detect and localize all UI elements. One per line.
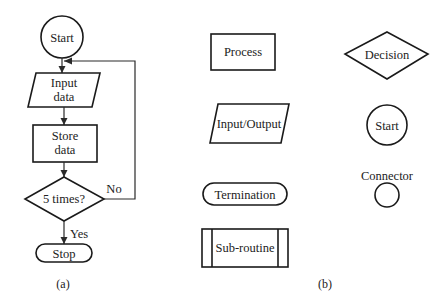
store-label-line2: data	[55, 143, 76, 157]
stop-label: Stop	[53, 247, 76, 261]
arrowhead-icon	[59, 66, 66, 73]
symbol-legend-b: Process Input/Output Termination Sub-rou…	[202, 32, 428, 291]
caption-b: (b)	[318, 277, 332, 291]
input-output-label: Input/Output	[217, 117, 282, 131]
flowchart-a: Start Input data Store data 5 times? No …	[25, 16, 135, 291]
connector-label: Connector	[361, 169, 414, 183]
store-label-line1: Store	[52, 129, 79, 143]
process-label: Process	[224, 45, 262, 59]
arrowhead-icon	[61, 118, 68, 125]
connector-symbol	[375, 183, 399, 207]
no-label: No	[106, 182, 121, 196]
arrowhead-icon	[61, 237, 68, 244]
decision-label: 5 times?	[43, 192, 85, 206]
arrowhead-icon	[61, 170, 68, 177]
termination-label: Termination	[215, 188, 277, 202]
input-label-line1: Input	[51, 76, 78, 90]
yes-label: Yes	[70, 227, 88, 241]
subroutine-label: Sub-routine	[215, 241, 274, 255]
start-symbol-label: Start	[375, 119, 399, 133]
flowchart-figure: Start Input data Store data 5 times? No …	[0, 0, 446, 302]
caption-a: (a)	[56, 277, 69, 291]
input-label-line2: data	[54, 90, 75, 104]
start-label: Start	[50, 31, 74, 45]
decision-symbol-label: Decision	[365, 48, 410, 62]
